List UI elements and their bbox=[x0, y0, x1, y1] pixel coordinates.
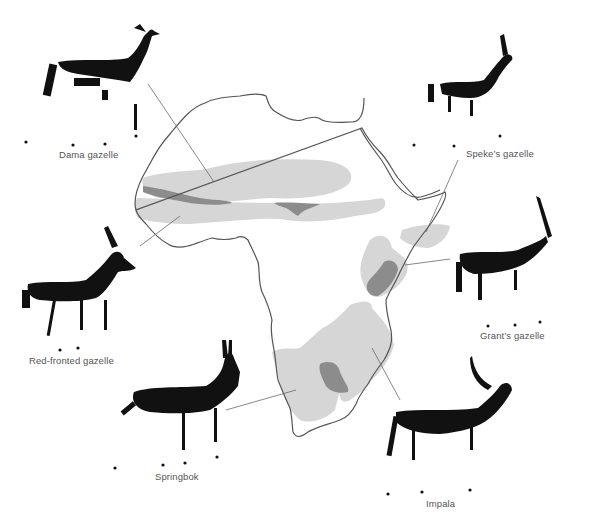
africa-range-map bbox=[0, 0, 591, 525]
grants-gazelle-illustration bbox=[456, 196, 552, 328]
leader-grant bbox=[405, 259, 450, 265]
spekes-gazelle-illustration bbox=[413, 34, 513, 148]
range-speke-light bbox=[400, 224, 450, 248]
label-impala: Impala bbox=[426, 498, 455, 509]
red-sea-coast bbox=[360, 128, 440, 197]
range-south-light bbox=[272, 302, 394, 422]
leader-dama bbox=[148, 84, 214, 182]
label-grants-gazelle: Grant’s gazelle bbox=[480, 330, 545, 341]
springbok-illustration bbox=[113, 340, 240, 470]
leader-springbok bbox=[226, 390, 296, 410]
label-spekes-gazelle: Speke’s gazelle bbox=[466, 148, 534, 159]
red-fronted-gazelle-illustration bbox=[22, 226, 136, 352]
impala-illustration bbox=[386, 356, 512, 496]
figure-canvas: Dama gazelle Speke’s gazelle Red-fronted… bbox=[0, 0, 591, 525]
leader-speke bbox=[426, 160, 458, 232]
label-red-fronted-gazelle: Red-fronted gazelle bbox=[29, 355, 114, 366]
dama-gazelle-illustration bbox=[24, 24, 160, 147]
label-dama-gazelle: Dama gazelle bbox=[59, 149, 118, 160]
label-springbok: Springbok bbox=[155, 471, 199, 482]
range-redfronted-light bbox=[135, 198, 385, 224]
